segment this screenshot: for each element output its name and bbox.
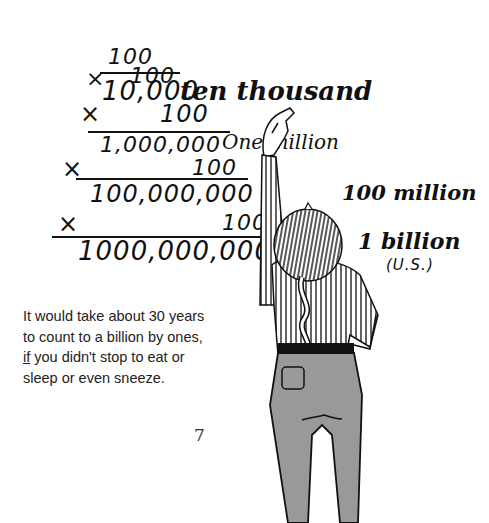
caption-line: to count to a billion by ones, [23,327,204,348]
caption: It would take about 30 years to count to… [23,306,204,388]
result-1000000000: 1000,000,000 [78,236,272,266]
page-number: 7 [194,425,205,445]
label-ten-thousand: ten thousand [180,76,372,106]
times-sign: × [58,210,79,238]
hand [263,108,294,157]
belt [278,343,354,353]
sum-line [100,72,180,74]
head [274,209,342,281]
caption-line: if you didn't stop to eat or [23,347,204,368]
caption-line: It would take about 30 years [23,306,204,327]
result-1000000: 1,000,000 [100,132,221,157]
label-us: (U.S.) [386,256,434,274]
multiplier: 100 [192,155,237,180]
girl-illustration [250,105,380,523]
result-100000000: 100,000,000 [90,180,254,208]
pants [270,353,362,523]
times-sign: × [80,100,101,128]
caption-line: sleep or even sneeze. [23,368,204,389]
multiplier: 100 [160,100,209,128]
